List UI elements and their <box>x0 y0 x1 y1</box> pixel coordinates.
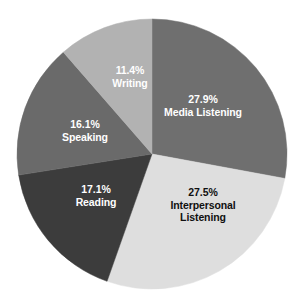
pie-chart-svg <box>0 0 306 303</box>
pie-slices <box>17 19 287 289</box>
pie-chart: 27.9% Media Listening 27.5% Interpersona… <box>0 0 306 303</box>
pie-slice-media-listening <box>152 19 287 178</box>
